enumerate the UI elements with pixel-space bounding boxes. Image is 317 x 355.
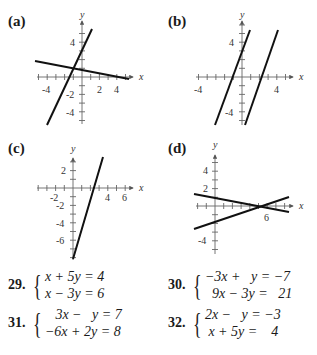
problem-30: 30. { −3x + y = −7 9x − 3y = 21 xyxy=(168,268,292,302)
equation: 2x − y = −3 xyxy=(205,306,281,323)
equation: x + 5y = 4 xyxy=(205,323,281,340)
line-2 xyxy=(194,197,289,229)
line xyxy=(73,157,103,259)
graph-b: x y -4 4 4 -4 xyxy=(194,9,304,125)
y-tick-label: -2 xyxy=(56,200,64,211)
y-tick-label: -4 xyxy=(198,235,206,246)
x-axis-label: x xyxy=(138,71,144,82)
brace-icon: { xyxy=(32,309,41,337)
x-tick-label: 2 xyxy=(97,84,102,95)
problem-32: 32. { 2x − y = −3 x + 5y = 4 xyxy=(168,306,281,340)
problem-31: 31. { 3x − y = 7 −6x + 2y = 8 xyxy=(8,306,122,340)
problem-number: 32. xyxy=(168,315,186,331)
equation: x + 5y = 4 xyxy=(45,268,104,285)
x-tick-label: 6 xyxy=(122,192,127,203)
y-axis-label: y xyxy=(79,9,85,20)
line-2 xyxy=(245,30,278,125)
graph-c: x y -2 4 6 2 -2 -4 -6 xyxy=(37,143,144,260)
x-axis-label: x xyxy=(298,71,304,82)
equation: −6x + 2y = 8 xyxy=(45,323,122,340)
line-1 xyxy=(194,194,289,212)
x-tick-label: -4 xyxy=(194,84,202,95)
y-axis-label: y xyxy=(70,143,76,154)
graph-a: x y -4 2 4 4 -2 -4 xyxy=(35,9,144,125)
graphs-canvas: x y -4 2 4 4 -2 -4 x y -4 4 4 -4 xyxy=(0,0,317,270)
x-tick-label: 4 xyxy=(114,84,119,95)
equation: 9x − 3y = 21 xyxy=(205,285,292,302)
y-axis-label: y xyxy=(239,9,245,20)
y-tick-label: 4 xyxy=(229,37,234,48)
graph-d: x y 6 4 2 -4 xyxy=(194,139,304,254)
equation: 3x − y = 7 xyxy=(45,306,122,323)
brace-icon: { xyxy=(192,309,201,337)
y-tick-label: 2 xyxy=(61,165,66,176)
equation: x − 3y = 6 xyxy=(45,285,104,302)
x-tick-label: -4 xyxy=(42,84,50,95)
y-tick-label: 2 xyxy=(203,183,208,194)
x-tick-label: 6 xyxy=(264,212,269,223)
y-tick-label: -4 xyxy=(56,218,64,229)
y-tick-label: -2 xyxy=(66,89,74,100)
y-tick-label: -4 xyxy=(225,107,233,118)
x-axis-label: x xyxy=(138,182,144,193)
equation: −3x + y = −7 xyxy=(205,268,292,285)
x-axis-label: x xyxy=(298,200,304,211)
problem-number: 30. xyxy=(168,277,186,293)
problem-number: 31. xyxy=(8,315,26,331)
y-tick-label: -6 xyxy=(56,235,64,246)
x-tick-label: 4 xyxy=(105,192,110,203)
y-tick-label: -4 xyxy=(66,107,74,118)
brace-icon: { xyxy=(192,271,201,299)
y-tick-label: 4 xyxy=(70,37,75,48)
y-axis-label: y xyxy=(212,139,218,150)
problem-number: 29. xyxy=(8,277,26,293)
y-tick-label: 4 xyxy=(203,165,208,176)
x-tick-label: 4 xyxy=(274,84,279,95)
problem-29: 29. { x + 5y = 4 x − 3y = 6 xyxy=(8,268,104,302)
brace-icon: { xyxy=(32,271,41,299)
